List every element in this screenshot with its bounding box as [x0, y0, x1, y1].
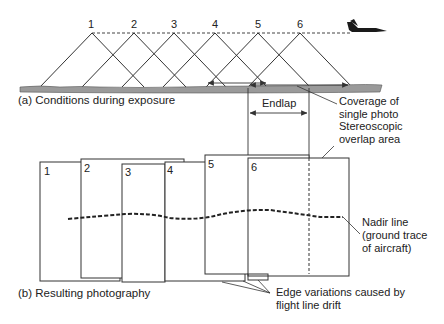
- stereo-label-line1: Stereoscopic: [339, 120, 403, 132]
- edge-label-line1: Edge variations caused by: [276, 286, 406, 298]
- jet-aircraft-icon: [347, 19, 387, 32]
- station-label-4: 4: [212, 18, 218, 30]
- photo-label-1: 1: [44, 165, 50, 177]
- edge-label-line2: flight line drift: [276, 299, 341, 311]
- panel-b-caption: (b) Resulting photography: [18, 287, 151, 299]
- aerial-photography-diagram: 1 2 3 4 5 6 Endlap Coverage of single ph…: [0, 0, 444, 324]
- photo-label-4: 4: [167, 164, 173, 176]
- nadir-label-line2: (ground trace: [362, 229, 427, 241]
- edge-variation-leaders: [222, 280, 270, 293]
- station-label-5: 5: [255, 18, 261, 30]
- ground-surface: [20, 85, 382, 94]
- station-label-2: 2: [131, 18, 137, 30]
- station-label-6: 6: [297, 18, 303, 30]
- photo-label-3: 3: [125, 166, 131, 178]
- stereo-label-line2: overlap area: [339, 133, 401, 145]
- photo-label-6: 6: [251, 161, 257, 173]
- endlap-label: Endlap: [262, 97, 296, 109]
- station-label-3: 3: [171, 18, 177, 30]
- photo-label-2: 2: [84, 162, 90, 174]
- panel-a-caption: (a) Conditions during exposure: [18, 94, 175, 106]
- nadir-label-line1: Nadir line: [362, 216, 408, 228]
- coverage-label-line1: Coverage of: [339, 95, 400, 107]
- nadir-label-line3: of aircraft): [362, 242, 412, 254]
- coverage-cones: [40, 33, 352, 87]
- coverage-label-line2: single photo: [339, 108, 398, 120]
- photo-label-5: 5: [208, 158, 214, 170]
- photo-3: [122, 164, 165, 282]
- station-label-1: 1: [88, 18, 94, 30]
